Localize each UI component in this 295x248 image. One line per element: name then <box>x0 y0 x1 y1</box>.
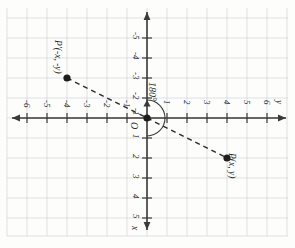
point-p-prime-label: P'(-x, -y) <box>53 40 63 74</box>
tick-label-x-neg2: -2 <box>131 92 140 100</box>
tick-label-x-pos3: 3 <box>131 174 140 179</box>
tick-label-y-neg6: -6 <box>22 100 31 108</box>
tick-label-x-pos2: 2 <box>131 154 140 159</box>
tick-label-y-pos2: 2 <box>182 100 191 105</box>
tick-label-y-pos6: 6 <box>262 100 271 105</box>
axis-label-x: x <box>130 226 140 230</box>
tick-label-x-neg5: -5 <box>131 32 140 40</box>
tick-label-x-pos5: 5 <box>131 214 140 219</box>
coordinate-plane-drawing <box>0 0 295 248</box>
point-p-label: P(x, y) <box>227 153 237 178</box>
tick-label-x-neg4: -4 <box>131 52 140 60</box>
axis-label-y: y <box>274 100 284 104</box>
rotation-angle-label: 180° <box>147 82 157 101</box>
tick-label-y-pos1: 1 <box>162 100 171 105</box>
graph-figure: -5 -4 -3 -2 -1 1 2 3 4 5 -6 -5 -4 -3 -2 … <box>0 0 295 248</box>
tick-label-x-neg1: -1 <box>131 108 140 116</box>
tick-label-y-pos5: 5 <box>242 100 251 105</box>
point-p-prime-marker <box>63 74 70 81</box>
tick-label-y-pos4: 4 <box>222 100 231 105</box>
tick-label-y-neg2: -2 <box>102 100 111 108</box>
origin-marker <box>143 114 150 121</box>
tick-label-x-pos1: 1 <box>131 134 140 139</box>
vertical-axis-arrow-bottom <box>144 222 151 230</box>
horizontal-axis-arrow-left <box>12 115 20 122</box>
tick-label-y-pos3: 3 <box>202 100 211 105</box>
tick-label-y-neg3: -3 <box>82 100 91 108</box>
tick-label-y-neg1: -1 <box>122 100 131 108</box>
tick-label-x-neg3: -3 <box>131 72 140 80</box>
vertical-axis-arrow-top <box>144 12 151 20</box>
origin-label: O <box>129 122 139 129</box>
horizontal-axis-arrow-right <box>278 115 286 122</box>
tick-label-y-neg5: -5 <box>42 100 51 108</box>
tick-label-y-neg4: -4 <box>62 100 71 108</box>
tick-label-x-pos4: 4 <box>131 194 140 199</box>
